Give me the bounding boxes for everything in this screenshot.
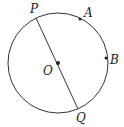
center-O-dot: [56, 61, 60, 65]
label-A: A: [83, 6, 93, 20]
label-B: B: [109, 53, 119, 67]
label-P: P: [29, 2, 39, 16]
circle-diagram: P A B O Q: [0, 0, 124, 127]
label-Q: Q: [76, 111, 86, 125]
label-O: O: [43, 64, 53, 78]
point-A-dot: [79, 18, 82, 21]
point-B-dot: [105, 57, 108, 60]
